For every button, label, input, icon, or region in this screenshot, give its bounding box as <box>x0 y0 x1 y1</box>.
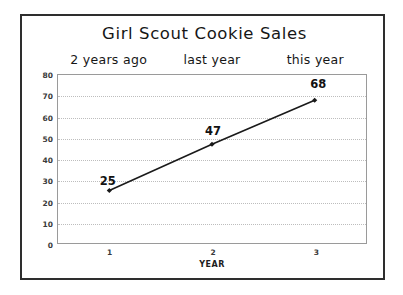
point-value-label: 47 <box>205 124 221 138</box>
y-tick-label: 20 <box>43 198 53 207</box>
chart-outer-frame: Girl Scout Cookie Sales 2 years agolast … <box>20 14 385 280</box>
plot-area: 01020304050607080 123 254768 <box>57 74 367 244</box>
chart-title: Girl Scout Cookie Sales <box>22 24 387 43</box>
x-tick-label: 1 <box>107 248 112 257</box>
data-point-marker <box>209 142 214 147</box>
y-tick-label: 80 <box>43 71 53 80</box>
point-value-label: 68 <box>310 77 326 91</box>
x-tick-label: 2 <box>210 248 215 257</box>
data-point-marker <box>107 188 112 193</box>
chart-annotation: 2 years ago <box>70 52 147 67</box>
y-tick-label: 10 <box>43 219 53 228</box>
data-point-marker <box>312 98 317 103</box>
y-tick-label: 0 <box>48 241 53 250</box>
y-tick-label: 40 <box>43 156 53 165</box>
y-tick-label: 50 <box>43 134 53 143</box>
y-tick-label: 30 <box>43 177 53 186</box>
chart-annotation: last year <box>183 52 240 67</box>
y-tick-label: 70 <box>43 92 53 101</box>
x-tick-label: 3 <box>314 248 319 257</box>
x-axis-title: YEAR <box>57 260 367 269</box>
point-value-label: 25 <box>100 174 116 188</box>
chart-annotation: this year <box>287 52 344 67</box>
y-tick-label: 60 <box>43 113 53 122</box>
data-series-line <box>58 75 366 243</box>
annotation-row: 2 years agolast yearthis year <box>22 52 387 70</box>
